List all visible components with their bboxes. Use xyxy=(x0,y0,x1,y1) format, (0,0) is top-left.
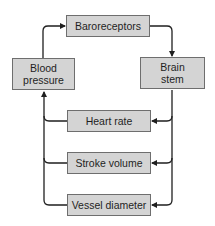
label-blood-pressure-line2: pressure xyxy=(23,74,64,86)
node-stroke-volume: Stroke volume xyxy=(67,152,151,174)
label-blood-pressure-line1: Blood xyxy=(30,62,57,74)
label-stroke-volume: Stroke volume xyxy=(75,157,142,169)
label-baroreceptors: Baroreceptors xyxy=(75,20,141,32)
node-brain-stem: Brain stem xyxy=(140,57,205,89)
label-vessel-diameter: Vessel diameter xyxy=(72,199,147,211)
line-stroke-volume-return xyxy=(44,158,67,163)
node-baroreceptors: Baroreceptors xyxy=(66,15,150,37)
arrow-to-heart-rate xyxy=(152,116,172,121)
label-brain-stem-line1: Brain xyxy=(160,61,185,73)
line-heart-rate-return xyxy=(44,116,67,121)
arrow-bp-to-baroreceptors xyxy=(43,26,65,58)
label-heart-rate: Heart rate xyxy=(86,115,133,127)
arrow-baroreceptors-to-brainstem xyxy=(150,26,172,56)
arrow-to-stroke-volume xyxy=(152,158,172,163)
node-blood-pressure: Blood pressure xyxy=(12,58,75,90)
arrow-to-vessel-diameter xyxy=(152,200,172,205)
node-heart-rate: Heart rate xyxy=(67,110,151,132)
label-brain-stem-line2: stem xyxy=(161,73,184,85)
node-vessel-diameter: Vessel diameter xyxy=(67,194,151,216)
line-vessel-diameter-return xyxy=(44,200,67,205)
